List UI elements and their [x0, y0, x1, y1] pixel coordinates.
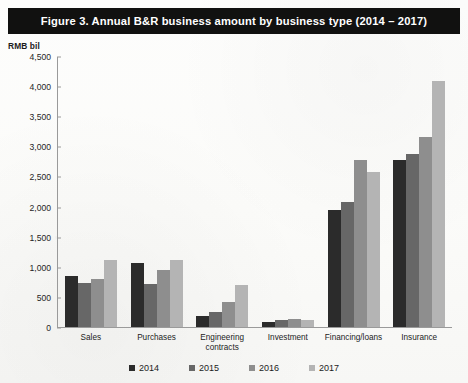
legend-item-2015: 2015 [189, 363, 219, 373]
bar-2016 [91, 279, 104, 327]
bar-2015 [275, 320, 288, 327]
y-axis-tick-label: 4,500 [29, 52, 57, 62]
x-axis-line [57, 327, 452, 328]
bar-2015 [406, 154, 419, 327]
chart-legend: 2014201520162017 [0, 363, 468, 373]
page-title: Figure 3. Annual B&R business amount by … [41, 15, 427, 27]
bar-group: Insurance [386, 57, 452, 327]
bar-2017 [235, 285, 248, 327]
chart-plot-area: 4,5004,0003,5003,0002,5002,0001,5001,000… [57, 57, 452, 328]
bar-group: Investment [255, 57, 321, 327]
bar-2015 [78, 283, 91, 327]
bar-2014 [65, 276, 78, 327]
x-axis-category-label: Financing/loans [321, 333, 387, 343]
x-axis-category-label: Engineeringcontracts [189, 333, 255, 352]
y-axis-tick-label: 1,000 [29, 263, 57, 273]
legend-item-2017: 2017 [309, 363, 339, 373]
legend-swatch-icon [249, 365, 255, 371]
figure-title-bar: Figure 3. Annual B&R business amount by … [8, 8, 460, 34]
x-axis-category-label: Insurance [386, 333, 452, 343]
legend-label: 2016 [259, 363, 279, 373]
bar-2017 [432, 81, 445, 327]
legend-swatch-icon [189, 365, 195, 371]
bar-2017 [301, 320, 314, 327]
bar-group: Engineeringcontracts [189, 57, 255, 327]
bar-group: Financing/loans [321, 57, 387, 327]
x-axis-category-label: Sales [58, 333, 124, 343]
y-axis-tick-label: 0 [46, 323, 57, 333]
y-axis-unit-label: RMB bil [8, 41, 40, 51]
bar-2014 [262, 322, 275, 327]
y-axis-tick-label: 500 [37, 293, 57, 303]
y-axis-tick-label: 4,000 [29, 82, 57, 92]
bar-2016 [222, 302, 235, 327]
legend-label: 2017 [319, 363, 339, 373]
y-axis-tick-label: 3,000 [29, 142, 57, 152]
legend-label: 2015 [199, 363, 219, 373]
bar-group: Sales [58, 57, 124, 327]
bar-2014 [328, 210, 341, 327]
bar-group: Purchases [124, 57, 190, 327]
y-axis-tick-label: 1,500 [29, 233, 57, 243]
bar-2014 [196, 316, 209, 327]
bar-2017 [170, 260, 183, 327]
y-axis-tick-label: 3,500 [29, 112, 57, 122]
legend-swatch-icon [309, 365, 315, 371]
bar-2014 [393, 160, 406, 327]
legend-item-2016: 2016 [249, 363, 279, 373]
legend-item-2014: 2014 [129, 363, 159, 373]
bar-2014 [131, 263, 144, 327]
figure-page: Figure 3. Annual B&R business amount by … [0, 0, 468, 383]
bar-2016 [288, 319, 301, 327]
bar-2015 [144, 284, 157, 327]
y-axis-tick-mark [57, 328, 61, 329]
x-axis-category-label: Purchases [124, 333, 190, 343]
bar-2016 [419, 137, 432, 327]
bar-2016 [157, 270, 170, 327]
y-axis-tick-label: 2,000 [29, 203, 57, 213]
bar-2015 [209, 312, 222, 327]
x-axis-category-label: Investment [255, 333, 321, 343]
bar-2017 [367, 172, 380, 327]
legend-label: 2014 [139, 363, 159, 373]
bar-2016 [354, 160, 367, 327]
bar-2017 [104, 260, 117, 327]
bar-2015 [341, 202, 354, 327]
y-axis-tick-label: 2,500 [29, 172, 57, 182]
legend-swatch-icon [129, 365, 135, 371]
bar-groups: SalesPurchasesEngineeringcontractsInvest… [58, 57, 452, 327]
